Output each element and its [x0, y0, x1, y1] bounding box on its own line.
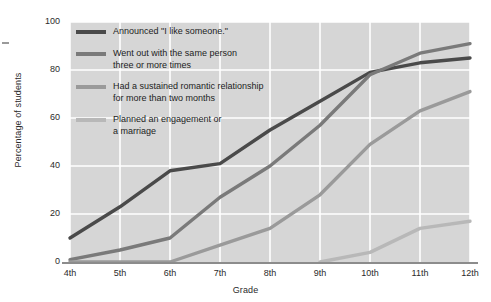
- x-tick-label: 5th: [100, 268, 140, 278]
- legend-label-1: Announced "I like someone.": [113, 26, 228, 38]
- x-tick-label: 8th: [250, 268, 290, 278]
- legend-item-1: Announced "I like someone.": [76, 26, 228, 38]
- chart-figure: 100806040200 4th5th6th7th8th9th10th11th1…: [0, 0, 491, 302]
- x-axis-title: Grade: [0, 285, 491, 295]
- legend-swatch-4: [76, 118, 106, 122]
- legend-item-3: Had a sustained romantic relationship fo…: [76, 81, 264, 104]
- y-tick-label: 20: [32, 208, 60, 218]
- legend-item-2: Went out with the same person three or m…: [76, 48, 237, 71]
- legend-swatch-1: [76, 30, 106, 34]
- line-chart-plot: [0, 0, 491, 302]
- x-tick-label: 12th: [450, 268, 490, 278]
- x-tick-label: 11th: [400, 268, 440, 278]
- legend-swatch-3: [76, 85, 106, 89]
- x-tick-label: 6th: [150, 268, 190, 278]
- y-tick-label: 60: [32, 112, 60, 122]
- x-tick-label: 9th: [300, 268, 340, 278]
- legend-swatch-2: [76, 52, 106, 56]
- y-tick-label: 100: [32, 16, 60, 26]
- legend-label-4: Planned an engagement or a marriage: [113, 114, 222, 137]
- x-tick-label: 10th: [350, 268, 390, 278]
- x-tick-label: 4th: [50, 268, 90, 278]
- left-edge-tick-mark: [2, 42, 9, 44]
- legend-label-3: Had a sustained romantic relationship fo…: [113, 81, 264, 104]
- y-tick-label: 40: [32, 160, 60, 170]
- x-tick-label: 7th: [200, 268, 240, 278]
- legend-item-4: Planned an engagement or a marriage: [76, 114, 222, 137]
- y-tick-label: 0: [32, 256, 60, 266]
- y-tick-label: 80: [32, 64, 60, 74]
- y-axis-title: Percentage of students: [13, 50, 23, 190]
- legend-label-2: Went out with the same person three or m…: [113, 48, 237, 71]
